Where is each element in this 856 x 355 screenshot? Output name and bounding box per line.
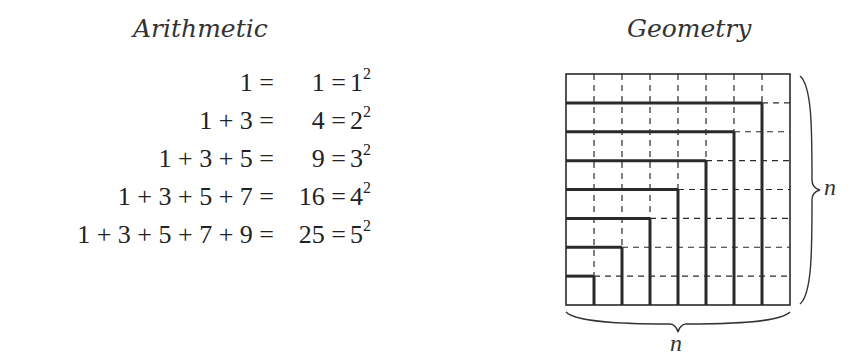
side-label-bottom: n (670, 330, 682, 355)
right-brace-icon (800, 76, 820, 304)
side-label-right: n (824, 174, 836, 201)
bottom-brace-icon (566, 312, 790, 332)
